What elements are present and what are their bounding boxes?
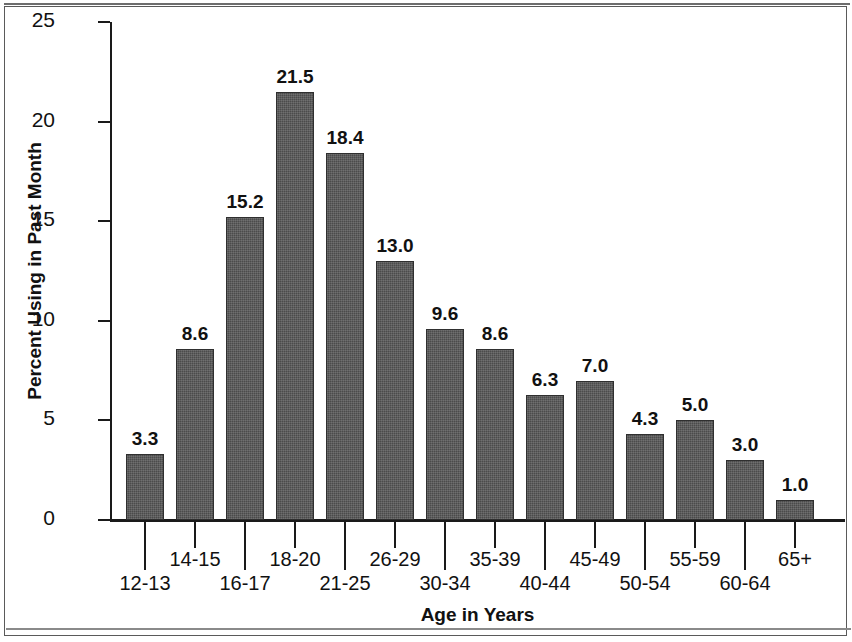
bar <box>426 329 464 520</box>
x-axis-tick <box>244 522 246 570</box>
x-axis-tick <box>744 522 746 570</box>
y-axis-tick <box>98 419 110 421</box>
bar <box>776 500 814 520</box>
bar-value-label: 3.0 <box>713 434 777 456</box>
bar-value-label: 9.6 <box>413 303 477 325</box>
bar-value-label: 7.0 <box>563 355 627 377</box>
x-axis-tick <box>644 522 646 570</box>
x-axis-tick-label: 35-39 <box>450 548 540 571</box>
bar-value-label: 8.6 <box>463 323 527 345</box>
y-axis-tick <box>98 519 110 521</box>
bar <box>526 395 564 520</box>
y-axis-tick-label: 25 <box>21 8 55 32</box>
x-axis-title: Age in Years <box>110 604 845 626</box>
bar-value-label: 18.4 <box>313 127 377 149</box>
y-axis-tick-label: 15 <box>21 207 55 231</box>
x-axis-tick <box>594 522 596 548</box>
x-axis-tick-label: 50-54 <box>600 572 690 595</box>
bar <box>626 434 664 520</box>
bar-value-label: 15.2 <box>213 191 277 213</box>
x-axis-tick-label: 26-29 <box>350 548 440 571</box>
y-axis-line <box>110 22 112 521</box>
bar-chart-plot-area: Percent Using in Past Month 0510152025 3… <box>0 0 852 642</box>
x-axis-tick-label: 55-59 <box>650 548 740 571</box>
x-axis-tick-label: 16-17 <box>200 572 290 595</box>
bar <box>676 420 714 520</box>
x-axis-tick <box>494 522 496 548</box>
x-axis-tick-label: 12-13 <box>100 572 190 595</box>
y-axis-tick-label: 5 <box>21 406 55 430</box>
x-axis-tick-label: 30-34 <box>400 572 490 595</box>
x-axis-tick <box>344 522 346 570</box>
x-axis-tick <box>144 522 146 570</box>
y-axis-tick-label: 10 <box>21 307 55 331</box>
bar <box>726 460 764 520</box>
x-axis-tick <box>794 522 796 548</box>
chart-page: Percent Using in Past Month 0510152025 3… <box>0 0 852 642</box>
y-axis-tick-label: 0 <box>21 506 55 530</box>
bar <box>276 92 314 520</box>
y-axis-tick <box>98 320 110 322</box>
x-axis-tick-label: 60-64 <box>700 572 790 595</box>
bar-value-label: 21.5 <box>263 66 327 88</box>
x-axis-tick-label: 40-44 <box>500 572 590 595</box>
bar-value-label: 1.0 <box>763 474 827 496</box>
bar <box>376 261 414 520</box>
x-axis-tick-label: 45-49 <box>550 548 640 571</box>
y-axis-tick-label: 20 <box>21 108 55 132</box>
x-axis-tick-label: 18-20 <box>250 548 340 571</box>
x-axis-tick <box>294 522 296 548</box>
bar <box>476 349 514 520</box>
x-axis-tick <box>544 522 546 570</box>
x-axis-tick-label: 65+ <box>750 548 840 571</box>
bar <box>576 381 614 520</box>
x-axis-tick-label: 14-15 <box>150 548 240 571</box>
bar <box>176 349 214 520</box>
bar <box>226 217 264 520</box>
bar <box>126 454 164 520</box>
y-axis-tick <box>98 220 110 222</box>
bar-value-label: 3.3 <box>113 428 177 450</box>
y-axis-tick <box>98 121 110 123</box>
x-axis-tick <box>194 522 196 548</box>
x-axis-tick-label: 21-25 <box>300 572 390 595</box>
bar-value-label: 13.0 <box>363 235 427 257</box>
y-axis-tick <box>98 21 110 23</box>
x-axis-tick <box>394 522 396 548</box>
bar <box>326 153 364 520</box>
bar-value-label: 8.6 <box>163 323 227 345</box>
bar-value-label: 5.0 <box>663 394 727 416</box>
x-axis-tick <box>694 522 696 548</box>
x-axis-tick <box>444 522 446 570</box>
